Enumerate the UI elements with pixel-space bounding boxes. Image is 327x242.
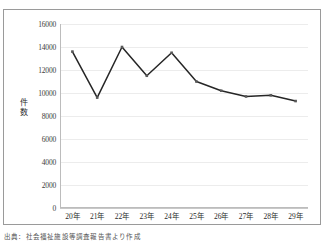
x-axis-tick-label: 24年 (164, 210, 179, 221)
x-axis-tick-label: 26年 (214, 210, 229, 221)
data-point-marker (146, 74, 149, 77)
data-point-marker (270, 94, 273, 97)
series-line (72, 47, 295, 101)
x-axis-tick-label: 28年 (264, 210, 279, 221)
data-point-marker (96, 96, 99, 99)
chart-figure-frame: 件数 0200040006000800010000120001400016000… (3, 9, 321, 225)
gridline (60, 208, 308, 209)
x-axis-tick-label: 27年 (239, 210, 254, 221)
data-point-marker (121, 46, 124, 49)
x-axis-tick-label: 23年 (140, 210, 155, 221)
x-axis-tick-label: 29年 (288, 210, 303, 221)
y-axis-tick-label: 14000 (38, 43, 56, 52)
data-point-marker (220, 89, 223, 92)
y-axis-tick-label: 12000 (38, 66, 56, 75)
x-axis-tick-label: 25年 (189, 210, 204, 221)
y-axis-tick-label: 0 (52, 204, 56, 213)
y-axis-tick-label: 6000 (42, 135, 56, 144)
y-axis-tick-label: 16000 (38, 20, 56, 29)
plot-area (60, 24, 308, 208)
data-point-marker (170, 51, 173, 54)
data-point-marker (245, 95, 248, 98)
data-point-marker (195, 80, 198, 83)
x-axis-tick-label: 20年 (65, 210, 80, 221)
y-axis-tick-labels: 0200040006000800010000120001400016000 (4, 24, 56, 208)
x-axis-tick-labels: 20年21年22年23年24年25年26年27年28年29年 (60, 210, 308, 224)
y-axis-tick-label: 10000 (38, 89, 56, 98)
figure-caption: 出典：社会福祉施設等調査報告書より作成 (4, 231, 327, 241)
y-axis-tick-label: 2000 (42, 181, 56, 190)
line-series (60, 24, 308, 208)
x-axis-tick-label: 22年 (115, 210, 130, 221)
y-axis-tick-label: 8000 (42, 112, 56, 121)
top-cutoff-strip (0, 0, 327, 7)
data-point-marker (294, 100, 297, 103)
y-axis-tick-label: 4000 (42, 158, 56, 167)
data-point-marker (71, 50, 74, 53)
x-axis-tick-label: 21年 (90, 210, 105, 221)
